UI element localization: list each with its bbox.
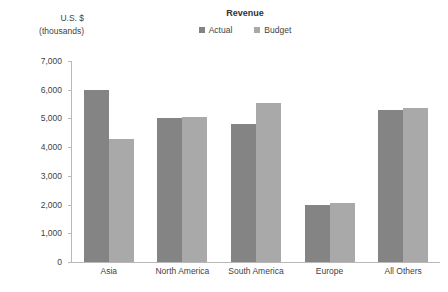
- bar-group: [72, 61, 146, 262]
- bar-actual[interactable]: [157, 118, 182, 262]
- y-axis-unit-line-1: U.S. $: [0, 12, 84, 25]
- bar-actual[interactable]: [84, 90, 109, 262]
- y-axis-tick-label: 1,000: [41, 228, 62, 238]
- legend-entry-budget: Budget: [254, 25, 291, 35]
- y-axis-unit-line-2: (thousands): [0, 25, 84, 38]
- y-axis-tick-label: 0: [57, 257, 62, 267]
- plot-area: 7,0006,0005,0004,0003,0002,0001,0000: [72, 61, 440, 262]
- bar-actual[interactable]: [231, 124, 256, 262]
- bar-group: [219, 61, 293, 262]
- bar-group: [366, 61, 440, 262]
- bar-budget[interactable]: [403, 108, 428, 262]
- legend-swatch-actual-icon: [199, 27, 205, 33]
- bar-group: [146, 61, 220, 262]
- x-axis-label: South America: [219, 266, 293, 276]
- y-axis-tick-label: 3,000: [41, 171, 62, 181]
- revenue-bar-chart: U.S. $ (thousands) Revenue Actual Budget…: [0, 0, 448, 292]
- legend-swatch-budget-icon: [254, 27, 260, 33]
- y-axis-tick-label: 5,000: [41, 113, 62, 123]
- y-axis-tick-label: 6,000: [41, 85, 62, 95]
- x-axis-line: [71, 262, 440, 263]
- bar-budget[interactable]: [330, 203, 355, 262]
- bar-group: [293, 61, 367, 262]
- bar-budget[interactable]: [182, 117, 207, 262]
- y-axis-tick-label: 2,000: [41, 200, 62, 210]
- bar-budget[interactable]: [109, 139, 134, 262]
- y-axis-tick: 0: [68, 262, 72, 263]
- bar-actual[interactable]: [378, 110, 403, 262]
- x-axis-label: Asia: [72, 266, 146, 276]
- x-axis-label: North America: [146, 266, 220, 276]
- bar-groups: [72, 61, 440, 262]
- x-axis-label: Europe: [293, 266, 367, 276]
- legend-label-budget: Budget: [264, 25, 291, 35]
- bar-actual[interactable]: [305, 205, 330, 262]
- chart-legend: Actual Budget: [120, 25, 370, 35]
- y-axis-unit-caption: U.S. $ (thousands): [0, 12, 84, 38]
- x-axis-labels: AsiaNorth AmericaSouth AmericaEuropeAll …: [72, 266, 440, 276]
- y-axis-tick-label: 7,000: [41, 56, 62, 66]
- x-axis-label: All Others: [366, 266, 440, 276]
- chart-title: Revenue: [120, 8, 370, 18]
- legend-entry-actual: Actual: [199, 25, 233, 35]
- legend-label-actual: Actual: [209, 25, 233, 35]
- bar-budget[interactable]: [256, 103, 281, 262]
- y-axis-tick-label: 4,000: [41, 142, 62, 152]
